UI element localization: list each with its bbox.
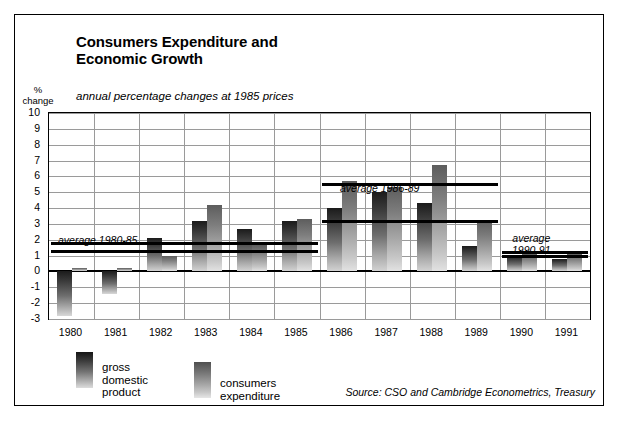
y-axis-tick: 3 <box>14 218 40 228</box>
bar-gross-domestic-product-1986 <box>327 208 342 271</box>
y-axis-tick: 6 <box>14 170 40 180</box>
bar-consumers-expenditure-1984 <box>252 245 267 272</box>
legend-label-consumers-expenditure: consumers expenditure <box>220 377 280 402</box>
average-1986-89-label: average 1986-89 <box>340 182 419 194</box>
x-axis-tick-1991: 1991 <box>536 326 596 338</box>
gridline-horizontal <box>49 319 590 320</box>
y-axis-tick: 9 <box>14 123 40 133</box>
bar-gross-domestic-product-1987 <box>372 192 387 271</box>
chart-page: Consumers Expenditure and Economic Growt… <box>0 0 621 422</box>
bar-consumers-expenditure-1980 <box>72 268 87 271</box>
gridline-vertical <box>410 113 411 319</box>
average-1980-85-label-line-1: average 1980-85 <box>58 234 137 246</box>
y-axis-tick: 7 <box>14 155 40 165</box>
bar-consumers-expenditure-1982 <box>162 256 177 272</box>
y-axis-tick: 8 <box>14 139 40 149</box>
average-1986-89-label-line-1: average 1986-89 <box>340 182 419 194</box>
bar-consumers-expenditure-1983 <box>207 205 222 272</box>
chart-legend: gross domestic product consumers expendi… <box>76 352 376 408</box>
y-axis-tick: 2 <box>14 234 40 244</box>
bar-gross-domestic-product-1989 <box>462 246 477 271</box>
y-axis-label: % change <box>12 84 64 106</box>
bar-consumers-expenditure-1986 <box>342 181 357 271</box>
average-1990-91-label-line-2: 1990-91 <box>512 244 551 256</box>
average-1990-91-label-line-1: average <box>512 232 551 244</box>
average-line-average-1980-85 <box>51 250 318 253</box>
bar-consumers-expenditure-1987 <box>387 187 402 271</box>
y-axis-tick: 5 <box>14 186 40 196</box>
bar-gross-domestic-product-1983 <box>192 221 207 272</box>
y-axis-tick: 1 <box>14 250 40 260</box>
gridline-vertical <box>365 113 366 319</box>
legend-gdp-line-1: gross <box>102 361 148 374</box>
gridline-vertical <box>229 113 230 319</box>
bar-consumers-expenditure-1985 <box>297 219 312 271</box>
bar-consumers-expenditure-1988 <box>432 165 447 271</box>
average-1980-85-label: average 1980-85 <box>58 234 137 246</box>
legend-label-gross-domestic-product: gross domestic product <box>102 361 148 399</box>
title-line-2: Economic Growth <box>76 50 496 67</box>
bar-gross-domestic-product-1990 <box>507 256 522 272</box>
title-line-1: Consumers Expenditure and <box>76 33 496 50</box>
gridline-vertical <box>274 113 275 319</box>
gridline-vertical <box>455 113 456 319</box>
legend-swatch-consumers-expenditure <box>194 362 211 398</box>
bar-gross-domestic-product-1991 <box>552 259 567 272</box>
plot-area <box>48 112 591 320</box>
average-line-average-1986-89 <box>322 220 498 223</box>
legend-gdp-line-3: product <box>102 386 148 399</box>
bar-gross-domestic-product-1981 <box>102 271 117 293</box>
bar-consumers-expenditure-1981 <box>117 268 132 271</box>
y-axis-tick: -2 <box>14 297 40 307</box>
legend-swatch-gross-domestic-product <box>76 352 93 388</box>
gridline-vertical <box>500 113 501 319</box>
source-note: Source: CSO and Cambridge Econometrics, … <box>345 386 595 398</box>
legend-gdp-line-2: domestic <box>102 374 148 387</box>
y-axis-tick: 4 <box>14 202 40 212</box>
bar-gross-domestic-product-1985 <box>282 221 297 272</box>
bar-consumers-expenditure-1989 <box>477 221 492 272</box>
average-1990-91-label: average1990-91 <box>512 232 551 256</box>
legend-ce-line-2: expenditure <box>220 390 280 403</box>
y-axis-tick: 0 <box>14 265 40 275</box>
y-axis-label-line-2: change <box>12 95 64 106</box>
y-axis-label-line-1: % <box>12 84 64 95</box>
y-axis-tick: 10 <box>14 107 40 117</box>
gridline-vertical <box>139 113 140 319</box>
y-axis-tick: -1 <box>14 281 40 291</box>
bar-gross-domestic-product-1988 <box>417 203 432 271</box>
chart-subtitle: annual percentage changes at 1985 prices <box>76 90 293 102</box>
legend-ce-line-1: consumers <box>220 377 280 390</box>
gridline-vertical <box>94 113 95 319</box>
gridline-vertical <box>184 113 185 319</box>
y-axis-tick: -3 <box>14 313 40 323</box>
gridline-vertical <box>320 113 321 319</box>
bar-gross-domestic-product-1980 <box>57 271 72 315</box>
gridline-vertical <box>545 113 546 319</box>
page-title: Consumers Expenditure and Economic Growt… <box>76 33 496 67</box>
